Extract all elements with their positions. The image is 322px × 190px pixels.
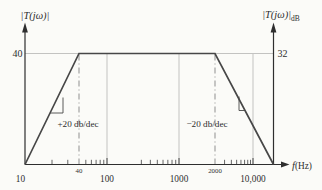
left-axis-arrowhead [22, 23, 28, 33]
right-gain-tick-label: 32 [278, 48, 288, 59]
left-gain-tick-label: 40 [13, 48, 23, 59]
fall-slope-label: −20 db/dec [186, 119, 227, 129]
bode-plot-figure: |T(jω)| |T(jω)|dB 40 32 +20 db/dec −20 d… [0, 0, 322, 190]
x-axis-arrowhead [281, 162, 290, 168]
bode-magnitude-plot: |T(jω)| |T(jω)|dB 40 32 +20 db/dec −20 d… [0, 0, 322, 190]
right-axis-title: |T(jω)|dB [262, 9, 300, 23]
left-axis-title: |T(jω)| [21, 10, 50, 22]
x-corner-label: 40 [76, 167, 83, 174]
x-major-label: 10 [16, 174, 26, 184]
x-major-label: 10,000 [240, 174, 266, 184]
x-major-label: 100 [100, 174, 114, 184]
right-axis-title-main: |T(jω)| [262, 9, 291, 21]
right-axis-title-subscript: dB [291, 14, 300, 23]
response-curve [25, 54, 274, 165]
plot-lines [22, 23, 289, 168]
right-axis-arrowhead [271, 23, 277, 33]
rise-slope-label: +20 db/dec [57, 119, 98, 129]
x-corner-label: 2000 [208, 167, 222, 174]
x-major-label: 1000 [170, 174, 189, 184]
x-axis-title-unit: (Hz) [295, 161, 312, 172]
x-axis-title: f(Hz) [292, 160, 312, 172]
